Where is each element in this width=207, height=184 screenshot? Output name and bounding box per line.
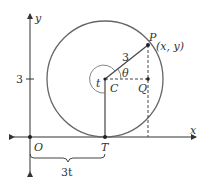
point-O — [28, 135, 32, 139]
point-T — [103, 135, 107, 139]
label-theta: θ — [122, 67, 129, 80]
cycloid-diagram: x y 3 P (x, y) C Q T O 3 θ t 3t — [0, 0, 207, 184]
label-O: O — [34, 141, 43, 154]
label-3t: 3t — [61, 166, 73, 179]
label-P-coords: (x, y) — [156, 40, 184, 53]
label-radius: 3 — [122, 51, 129, 64]
angle-theta-arc — [118, 69, 121, 79]
y-tick-label: 3 — [16, 73, 23, 86]
y-axis-label: y — [34, 12, 42, 25]
x-axis-label: x — [190, 124, 197, 137]
point-Q — [146, 77, 150, 81]
label-t: t — [96, 77, 101, 90]
point-C — [103, 77, 106, 80]
label-T: T — [101, 141, 110, 154]
label-C: C — [110, 82, 119, 95]
label-Q: Q — [138, 82, 147, 95]
brace-3t — [30, 154, 105, 162]
